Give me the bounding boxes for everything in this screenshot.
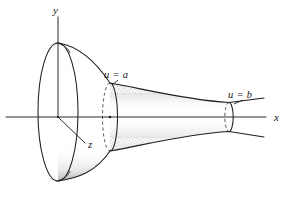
figure-root: y x z u = a u = b [0,0,287,200]
surface-of-revolution-figure: y x z u = a u = b [0,0,287,200]
u-a-center-dot [109,116,111,118]
origin-dot [57,116,59,118]
y-axis-label: y [52,4,58,16]
x-axis-label: x [273,111,279,123]
u-equals-b-label: u = b [228,89,252,100]
u-equals-a-label: u = a [104,69,128,80]
z-axis-label: z [87,138,93,150]
